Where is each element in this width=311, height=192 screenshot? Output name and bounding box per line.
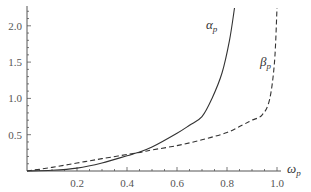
x-tick-label: 1.0 (270, 177, 284, 189)
alpha-label: αp (206, 17, 218, 34)
y-tick-label: 1.0 (8, 92, 22, 104)
y-tick-label: 1.5 (8, 56, 22, 68)
axes: 0.20.40.60.81.0 0.51.01.52.0 (8, 6, 284, 189)
x-tick-label: 0.4 (120, 177, 134, 189)
x-tick-label: 0.8 (220, 177, 234, 189)
chart: 0.20.40.60.81.0 0.51.01.52.0 αp βp ωp (0, 0, 311, 192)
beta-label: βp (259, 54, 271, 71)
y-ticks: 0.51.01.52.0 (8, 11, 31, 163)
y-tick-label: 0.5 (8, 129, 22, 141)
curves (27, 8, 277, 171)
x-tick-label: 0.6 (170, 177, 184, 189)
x-axis-label: ωp (287, 161, 301, 178)
x-ticks: 0.20.40.60.81.0 (40, 167, 285, 189)
y-tick-label: 2.0 (8, 20, 22, 32)
alpha-curve (27, 8, 235, 171)
x-tick-label: 0.2 (70, 177, 84, 189)
